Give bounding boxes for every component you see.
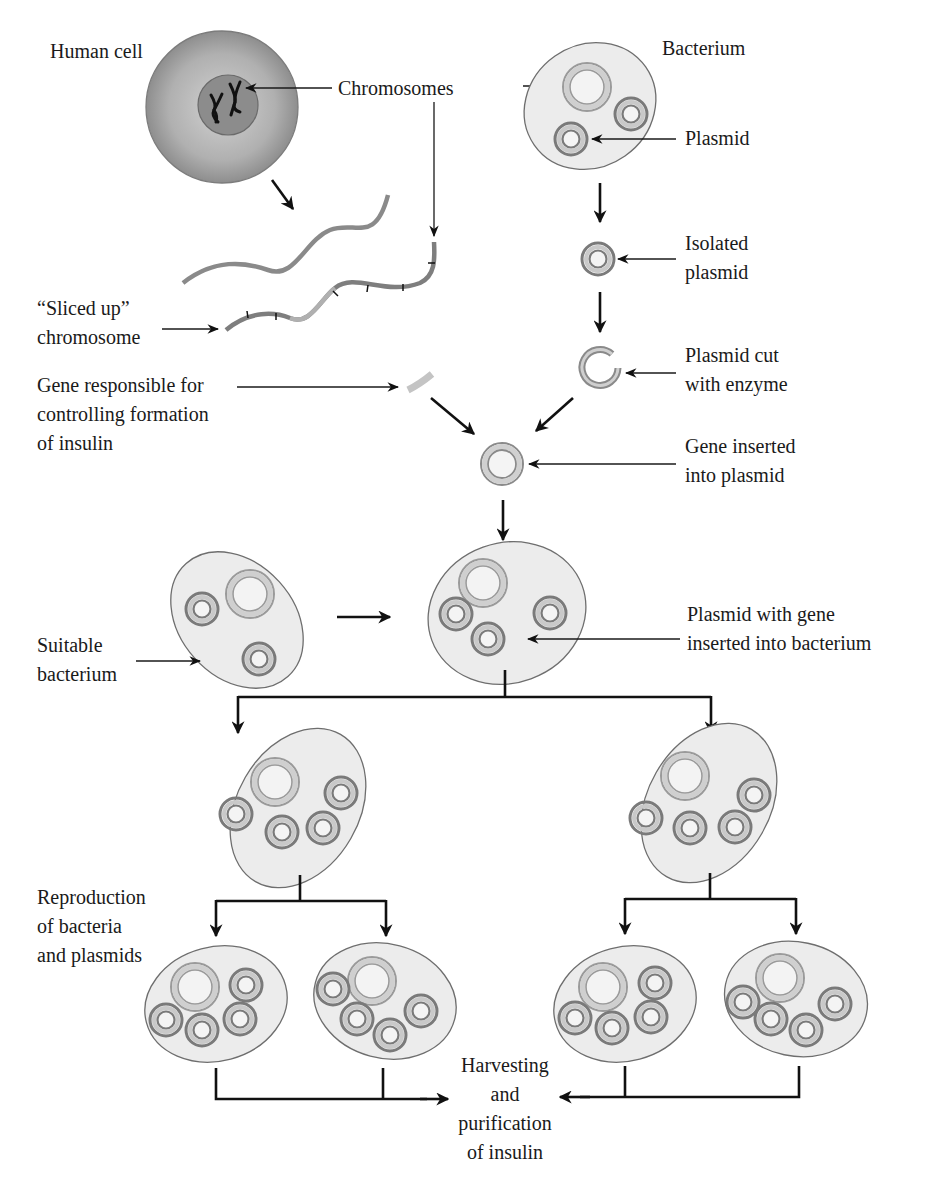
bacterium-gen3-d	[714, 928, 879, 1069]
cut-plasmid	[582, 349, 618, 385]
bacterium	[499, 17, 680, 195]
chromosomes-label: Chromosomes	[338, 77, 454, 99]
insulin-recombinant-dna-diagram: Human cell Chromosomes “Sliced up” chrom…	[0, 0, 931, 1177]
human-cell	[146, 31, 298, 183]
recombinant-plasmid	[481, 443, 523, 485]
chromosome-strands	[183, 195, 435, 330]
plasmid-with-gene-label-line2: inserted into bacterium	[687, 632, 872, 654]
gene-inserted-label-line2: into plasmid	[685, 464, 784, 487]
isolated-plasmid	[582, 243, 614, 275]
harvest-line-right	[580, 1066, 799, 1097]
bacterium-label: Bacterium	[662, 37, 746, 59]
plasmid-cut-label-line2: with enzyme	[685, 373, 788, 396]
human-cell-label: Human cell	[50, 40, 143, 62]
plasmid-cut-label-line1: Plasmid cut	[685, 344, 779, 366]
harvest-line-left	[216, 1068, 427, 1099]
suitable-bacterium	[144, 525, 330, 714]
suitable-bacterium-label-line2: bacterium	[37, 663, 117, 685]
gene-responsible-label-line3: of insulin	[37, 432, 113, 454]
harvesting-label-line4: of insulin	[467, 1141, 543, 1163]
gene-responsible-label-line2: controlling formation	[37, 403, 209, 426]
harvesting-label-line2: and	[491, 1083, 520, 1105]
suitable-bacterium-label-line1: Suitable	[37, 634, 103, 656]
cell-to-dna-arrow	[272, 180, 293, 209]
reproduction-label-line3: and plasmids	[37, 944, 142, 967]
sliced-chromosome-label-line1: “Sliced up”	[37, 297, 130, 320]
bacterium-gen2-left	[203, 704, 394, 912]
isolated-plasmid-label-line2: plasmid	[685, 261, 748, 284]
cut-to-inserted-arrow	[536, 398, 573, 431]
reproduction-label-line1: Reproduction	[37, 886, 146, 909]
gene-responsible-label-line1: Gene responsible for	[37, 374, 204, 397]
bacterium-gen3-c	[541, 930, 710, 1077]
gene-inserted-label-line1: Gene inserted	[685, 435, 796, 457]
harvesting-label-line1: Harvesting	[461, 1054, 549, 1077]
insulin-gene-fragment	[408, 374, 432, 390]
bacterium-gen3-b	[301, 927, 470, 1074]
bacterium-gen3-a	[132, 930, 301, 1077]
transformed-bacterium	[408, 520, 606, 706]
harvesting-label-line3: purification	[458, 1112, 551, 1135]
plasmid-with-gene-label-line1: Plasmid with gene	[687, 603, 835, 626]
sliced-chromosome-label-line2: chromosome	[37, 326, 140, 348]
gene-to-plasmid-arrow	[431, 398, 474, 434]
reproduction-label-line2: of bacteria	[37, 915, 122, 937]
isolated-plasmid-label-line1: Isolated	[685, 232, 748, 254]
plasmid-label: Plasmid	[685, 127, 749, 149]
